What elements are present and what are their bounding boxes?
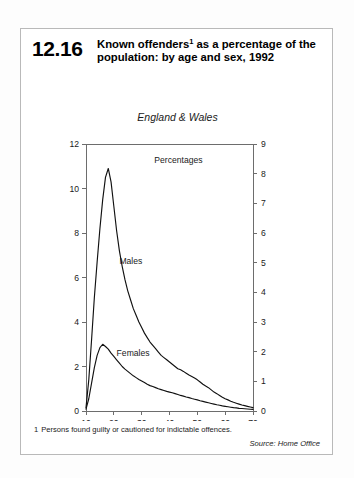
- svg-text:9: 9: [261, 139, 266, 149]
- svg-text:20: 20: [109, 418, 119, 421]
- chart-series: [86, 168, 253, 409]
- svg-text:2: 2: [261, 347, 266, 357]
- series-line-males: [86, 168, 253, 407]
- figure-title-line3: 1992: [249, 51, 274, 63]
- svg-text:40: 40: [165, 418, 175, 421]
- footnote: 1Persons found guilty or cautioned for i…: [34, 425, 232, 434]
- svg-text:5: 5: [261, 258, 266, 268]
- svg-text:8: 8: [74, 228, 79, 238]
- svg-text:0: 0: [261, 406, 266, 416]
- footnote-number: 1: [34, 425, 38, 434]
- svg-text:4: 4: [74, 317, 79, 327]
- svg-text:10: 10: [81, 418, 91, 421]
- svg-text:7: 7: [261, 198, 266, 208]
- svg-text:0: 0: [74, 406, 79, 416]
- svg-text:60: 60: [220, 418, 230, 421]
- source-line: Source: Home Office: [250, 439, 320, 448]
- svg-text:4: 4: [261, 287, 266, 297]
- figure-card: 12.16 Known offenders1 as a percentage o…: [20, 28, 333, 455]
- chart-area: England & Wales Percentages 024681012012…: [21, 91, 333, 421]
- figure-number: 12.16: [32, 37, 83, 61]
- svg-text:10: 10: [69, 184, 79, 194]
- svg-text:30: 30: [137, 418, 147, 421]
- svg-text:50: 50: [193, 418, 203, 421]
- figure-title-line1: Known offenders: [97, 38, 189, 50]
- svg-text:3: 3: [261, 317, 266, 327]
- svg-text:2: 2: [74, 362, 79, 372]
- series-label-males: Males: [119, 256, 142, 266]
- svg-text:70: 70: [248, 418, 258, 421]
- chart-axes: 024681012012345678910203040506070Age: [69, 139, 266, 421]
- line-chart-plot: 024681012012345678910203040506070Age Mal…: [21, 91, 333, 421]
- svg-text:12: 12: [69, 139, 79, 149]
- svg-text:1: 1: [261, 376, 266, 386]
- figure-header: 12.16 Known offenders1 as a percentage o…: [21, 29, 332, 91]
- svg-text:6: 6: [261, 228, 266, 238]
- svg-text:8: 8: [261, 169, 266, 179]
- svg-text:6: 6: [74, 273, 79, 283]
- figure-title-line1-rest: as a percentage: [193, 38, 282, 50]
- series-label-females: Females: [117, 348, 150, 358]
- figure-title: Known offenders1 as a percentage of the …: [97, 35, 327, 64]
- footnote-text: Persons found guilty or cautioned for in…: [41, 425, 232, 434]
